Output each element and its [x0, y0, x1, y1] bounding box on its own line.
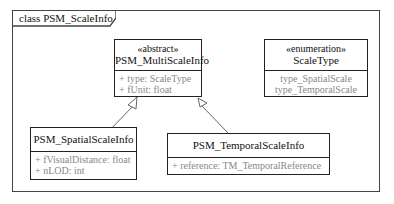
attribute: + fUnit: float [119, 84, 197, 95]
stereotype: «enumeration» [265, 43, 367, 54]
class-header: «abstract» PSM_MultiScaleInfo [115, 40, 201, 71]
class-name: ScaleType [265, 54, 367, 67]
class-scaletype[interactable]: «enumeration» ScaleType type_SpatialScal… [264, 39, 368, 97]
class-psm-spatialscaleinfo[interactable]: PSM_SpatialScaleInfo + fVisualDistance: … [30, 127, 137, 180]
attribute: + type: ScaleType [119, 73, 197, 84]
attribute-list: + reference: TM_TemporalReference [168, 158, 329, 173]
enum-literal: type_TemporalScale [269, 84, 363, 95]
class-psm-multiscaleinfo[interactable]: «abstract» PSM_MultiScaleInfo + type: Sc… [114, 39, 202, 97]
attribute: + fVisualDistance: float [35, 154, 132, 165]
class-psm-temporalscaleinfo[interactable]: PSM_TemporalScaleInfo + reference: TM_Te… [167, 133, 330, 175]
stereotype: «abstract» [115, 43, 201, 54]
class-header: PSM_SpatialScaleInfo [31, 128, 136, 152]
class-name: PSM_SpatialScaleInfo [31, 133, 136, 146]
enum-literal: type_SpatialScale [269, 73, 363, 84]
class-header: «enumeration» ScaleType [265, 40, 367, 71]
class-name: PSM_MultiScaleInfo [115, 54, 201, 67]
attribute: + nLOD: int [35, 165, 132, 176]
attribute-list: + fVisualDistance: float + nLOD: int [31, 152, 136, 178]
attribute-list: + type: ScaleType + fUnit: float [115, 71, 201, 97]
literal-list: type_SpatialScale type_TemporalScale [265, 71, 367, 97]
class-name: PSM_TemporalScaleInfo [168, 139, 329, 152]
class-header: PSM_TemporalScaleInfo [168, 134, 329, 158]
attribute: + reference: TM_TemporalReference [172, 160, 325, 171]
